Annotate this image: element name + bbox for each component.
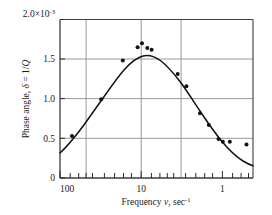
figure-container: 2.0×10-3 1.5 1.0 0.5 0 100 10 1 Frequenc… [0, 0, 272, 215]
data-point [217, 137, 221, 141]
data-point [99, 97, 103, 101]
xtick-label-1: 1 [220, 184, 225, 194]
ytick-label-0.5: 0.5 [43, 134, 55, 144]
data-point [221, 140, 225, 144]
xtick-label-10: 10 [136, 184, 146, 194]
xtick-label-100: 100 [60, 184, 75, 194]
data-point [70, 134, 74, 138]
data-point [207, 123, 211, 127]
data-point [184, 84, 188, 88]
data-point [121, 58, 125, 62]
data-point [140, 41, 144, 45]
phase-angle-vs-frequency-chart: 2.0×10-3 1.5 1.0 0.5 0 100 10 1 Frequenc… [0, 0, 272, 215]
ytick-label-1.0: 1.0 [43, 94, 55, 104]
ytick-label-0: 0 [50, 173, 55, 183]
data-point [245, 143, 249, 147]
data-point [176, 72, 180, 76]
data-point [136, 45, 140, 49]
data-point [145, 46, 149, 50]
data-point [150, 48, 154, 52]
x-axis-title: Frequency ν, sec-1 [121, 196, 190, 208]
data-point [228, 140, 232, 144]
ytick-label-1.5: 1.5 [43, 54, 55, 64]
y-axis-title: Phase angle, δ = 1/Q [21, 60, 31, 139]
data-point [198, 111, 202, 115]
